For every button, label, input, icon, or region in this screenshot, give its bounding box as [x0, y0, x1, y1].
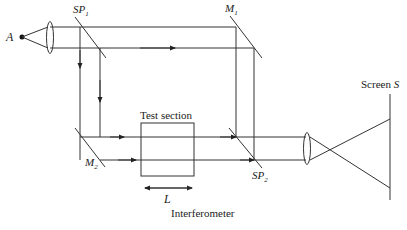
cone-ray-bottom	[22, 37, 48, 48]
length-label: L	[163, 192, 171, 206]
cone-ray-top	[22, 27, 48, 37]
collimating-lens	[47, 22, 54, 54]
source-point: A	[5, 30, 25, 44]
splitter-1-label: SP1	[73, 3, 89, 18]
screen-label: Screen S	[361, 78, 400, 90]
splitter-2	[229, 128, 262, 168]
splitter-2-label: SP2	[252, 169, 268, 184]
ray-cross-1	[310, 137, 390, 188]
mirror-2-label: M2	[84, 156, 98, 171]
focusing-lens	[304, 133, 311, 165]
mirror-1-label: M1	[224, 2, 238, 17]
diagram-caption: Interferometer	[171, 207, 235, 219]
interferometer-diagram: A SP1 M1 M2 Test section L SP2 Scree	[0, 0, 407, 230]
ray-cross-2	[310, 119, 390, 160]
test-section-label: Test section	[140, 109, 193, 121]
mirror-1	[230, 16, 262, 58]
source-label: A	[5, 30, 14, 44]
test-section-box	[141, 123, 194, 176]
